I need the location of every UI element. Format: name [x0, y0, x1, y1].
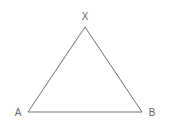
triangle-diagram: X A B	[0, 0, 169, 128]
triangle-shape	[28, 27, 142, 112]
vertex-label-x: X	[82, 11, 89, 22]
vertex-label-b: B	[149, 107, 156, 118]
vertex-label-a: A	[15, 107, 22, 118]
